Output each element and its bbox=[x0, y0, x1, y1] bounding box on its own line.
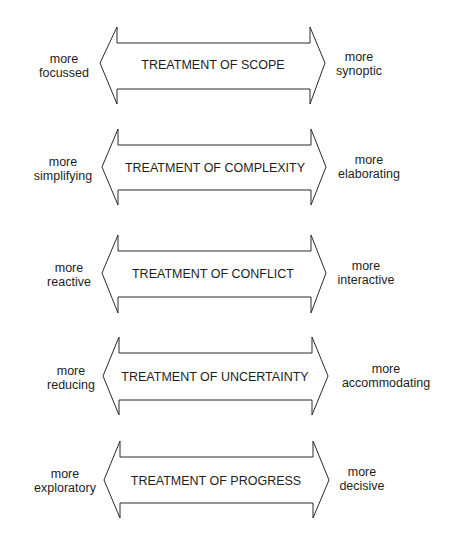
complexity-right-line2: elaborating bbox=[338, 167, 400, 181]
progress-title: TREATMENT OF PROGRESS bbox=[131, 474, 301, 488]
conflict-continuum: TREATMENT OF CONFLICT more reactive more… bbox=[47, 235, 394, 313]
progress-continuum: TREATMENT OF PROGRESS more exploratory m… bbox=[34, 441, 385, 518]
progress-left-line2: exploratory bbox=[34, 481, 97, 495]
scope-left-line2: focussed bbox=[39, 66, 89, 80]
uncertainty-title: TREATMENT OF UNCERTAINTY bbox=[121, 370, 309, 384]
conflict-right-line2: interactive bbox=[338, 273, 395, 287]
complexity-left-line1: more bbox=[49, 155, 78, 169]
scope-right-line1: more bbox=[345, 50, 374, 64]
progress-right-line2: decisive bbox=[339, 479, 384, 493]
conflict-right-line1: more bbox=[352, 259, 381, 273]
scope-title: TREATMENT OF SCOPE bbox=[141, 58, 284, 72]
conflict-title: TREATMENT OF CONFLICT bbox=[132, 267, 294, 281]
uncertainty-continuum: TREATMENT OF UNCERTAINTY more reducing m… bbox=[47, 337, 430, 415]
conflict-left-line1: more bbox=[55, 261, 84, 275]
complexity-title: TREATMENT OF COMPLEXITY bbox=[125, 161, 306, 175]
scope-continuum: TREATMENT OF SCOPE more focussed more sy… bbox=[39, 27, 382, 104]
conflict-left-line2: reactive bbox=[47, 275, 91, 289]
continuum-diagram: TREATMENT OF SCOPE more focussed more sy… bbox=[0, 0, 458, 544]
complexity-continuum: TREATMENT OF COMPLEXITY more simplifying… bbox=[34, 129, 400, 205]
uncertainty-left-line2: reducing bbox=[47, 378, 95, 392]
uncertainty-left-line1: more bbox=[57, 364, 86, 378]
uncertainty-right-line1: more bbox=[372, 362, 401, 376]
scope-right-line2: synoptic bbox=[336, 64, 382, 78]
complexity-right-line1: more bbox=[355, 153, 384, 167]
complexity-left-line2: simplifying bbox=[34, 169, 92, 183]
progress-right-line1: more bbox=[348, 465, 377, 479]
progress-left-line1: more bbox=[51, 467, 80, 481]
uncertainty-right-line2: accommodating bbox=[342, 376, 430, 390]
scope-left-line1: more bbox=[50, 52, 79, 66]
